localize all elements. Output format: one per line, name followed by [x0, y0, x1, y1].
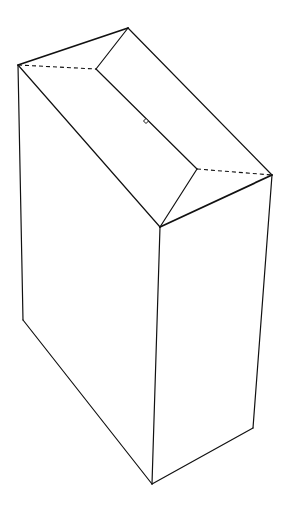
edge-top_peak-right_corner	[128, 28, 272, 175]
edge-top_left-left_bottom	[18, 65, 23, 320]
edge-right_bottom-bottom	[152, 428, 253, 484]
edge-top_left-top_peak	[18, 28, 128, 65]
slot-marker	[144, 119, 149, 124]
edge-right_corner-right_bottom	[253, 175, 272, 428]
solid-edges	[18, 28, 272, 484]
slot-diamond-icon	[144, 119, 149, 124]
edge-left_bottom-bottom	[23, 320, 152, 484]
box-diagram	[0, 0, 287, 516]
edge-front_top-bottom	[152, 227, 160, 484]
fold-line-top_left-inner_left	[18, 65, 96, 69]
fold-line-inner_right-right_corner	[197, 169, 272, 175]
edge-top_left-front_top	[18, 65, 160, 227]
